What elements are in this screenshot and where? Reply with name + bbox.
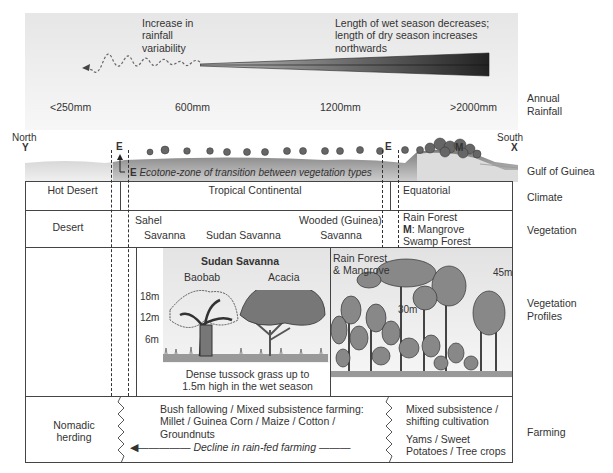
- annual-rainfall-label: Annual Rainfall: [527, 92, 562, 118]
- ecotone-marker-right: E: [385, 141, 392, 153]
- zigzag-boundary-right: [384, 396, 394, 463]
- table-border-bottom: [25, 462, 513, 463]
- vegetation-rainforest: Rain Forest M: Mangrove Swamp Forest: [403, 211, 471, 247]
- vegetation-rainforest-1: Rain Forest: [403, 211, 471, 223]
- wet-season-label: Length of wet season decreases; length o…: [335, 17, 489, 54]
- climate-divider-right: [390, 181, 391, 210]
- table-row-divider-3: [25, 396, 513, 397]
- vegetation-wooded-1: Wooded (Guinea): [299, 214, 382, 226]
- climate-row-label: Climate: [527, 191, 563, 204]
- rainfall-value-1: <250mm: [50, 101, 91, 113]
- ecotone-note-letter: E: [130, 167, 137, 178]
- climate-hot-desert: Hot Desert: [25, 184, 120, 196]
- gulf-of-guinea-label: Gulf of Guinea: [527, 165, 595, 177]
- profile-divider-left: [136, 247, 137, 396]
- climate-tropical-continental: Tropical Continental: [130, 184, 380, 196]
- vegetation-desert: Desert: [25, 221, 111, 233]
- height-12m: 12m: [140, 312, 159, 324]
- table-border-right: [512, 181, 513, 463]
- height-18m: 18m: [140, 291, 159, 303]
- ecotone-note: E Ecotone-zone of transition between veg…: [130, 167, 372, 179]
- decline-text: Decline in rain-fed farming: [193, 441, 316, 453]
- north-marker-y: Y: [22, 142, 29, 154]
- farming-crops: Yams / Sweet Potatoes / Tree crops: [406, 433, 506, 458]
- farming-row-label: Farming: [527, 426, 566, 439]
- savanna-grass-caption: Dense tussock grass up to 1.5m high in t…: [165, 368, 330, 393]
- rainfall-variability-label: Increase in rainfall variability: [142, 17, 193, 54]
- farming-decline: ◀————— Decline in rain-fed farming ———: [130, 441, 350, 453]
- ecotone-boundary-4: [398, 150, 399, 248]
- mangrove-marker: M: [455, 142, 463, 154]
- vegetation-row-label: Vegetation: [527, 224, 577, 237]
- baobab-label: Baobab: [184, 271, 220, 283]
- vegetation-sahel-2: Savanna: [144, 229, 185, 241]
- wet-season-wedge: [200, 50, 500, 80]
- rainfall-value-2: 600mm: [175, 101, 210, 113]
- savanna-trees-illustration: [160, 290, 330, 365]
- rainforest-profile-title: Rain Forest & Mangrove: [333, 252, 390, 277]
- climate-equatorial: Equatorial: [403, 184, 450, 196]
- vegetation-sahel-1: Sahel: [135, 214, 162, 226]
- height-45m: 45m: [493, 267, 512, 279]
- table-border-top: [25, 181, 513, 182]
- ecotone-boundary-2: [128, 150, 129, 396]
- rainforest-trees-illustration: [331, 258, 512, 383]
- farming-nomadic-herding: Nomadic herding: [25, 419, 123, 444]
- rainfall-value-3: 1200mm: [320, 101, 361, 113]
- south-marker-x: X: [511, 142, 518, 154]
- savanna-profile-title: Sudan Savanna: [180, 255, 300, 267]
- height-30m: 30m: [398, 304, 417, 316]
- vegetation-wooded-2: Savanna: [299, 229, 383, 241]
- farming-mixed-subsistence: Mixed subsistence / shifting cultivation: [406, 403, 498, 428]
- vegetation-mangrove-text: : Mangrove: [412, 223, 465, 235]
- vegetation-profiles-row-label: Vegetation Profiles: [527, 297, 577, 323]
- vegetation-swamp-forest: Swamp Forest: [403, 235, 471, 247]
- mangrove-m: M: [403, 223, 412, 235]
- height-6m: 6m: [145, 334, 159, 346]
- rainfall-value-4: >2000mm: [450, 101, 497, 113]
- vegetation-sudan: Sudan Savanna: [206, 229, 281, 241]
- climate-divider-left: [120, 181, 121, 210]
- left-arrow-icon: ◀—————: [130, 441, 193, 453]
- vegetation-mangrove: M: Mangrove: [403, 223, 471, 235]
- ecotone-arrow-icon: [116, 152, 128, 174]
- farming-bush-fallowing: Bush fallowing / Mixed subsistence farmi…: [160, 403, 364, 440]
- acacia-label: Acacia: [268, 271, 300, 283]
- ecotone-note-text: Ecotone-zone of transition between veget…: [139, 167, 371, 178]
